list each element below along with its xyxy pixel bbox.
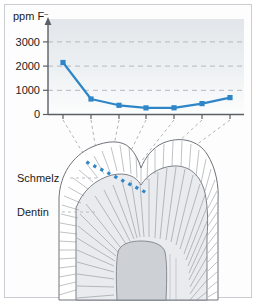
y-axis-title-text: ppm F — [13, 10, 44, 22]
data-point-4 — [143, 105, 148, 110]
label-schmelz: Schmelz — [17, 172, 59, 184]
y-tick-label-3000: 3000 — [16, 36, 40, 48]
data-point-5 — [171, 105, 176, 110]
figure-root: 3000 2000 1000 0 ppm F– — [0, 0, 258, 304]
figure-canvas: 3000 2000 1000 0 ppm F– — [0, 0, 258, 304]
pulp-chamber — [116, 241, 166, 300]
y-tick-label-1000: 1000 — [16, 84, 40, 96]
y-tick-label-2000: 2000 — [16, 60, 40, 72]
data-point-6 — [199, 101, 204, 106]
data-point-7 — [227, 95, 232, 100]
y-axis-ticks — [43, 42, 48, 115]
data-point-2 — [88, 96, 93, 101]
y-tick-label-0: 0 — [34, 108, 40, 120]
y-axis-title: ppm F– — [13, 10, 48, 22]
data-point-1 — [60, 60, 65, 65]
label-dentin: Dentin — [17, 206, 49, 218]
chart-panel: 3000 2000 1000 0 ppm F– — [13, 10, 244, 120]
y-axis-title-superscript: – — [44, 10, 48, 17]
data-point-3 — [116, 103, 121, 108]
tooth-diagram: Schmelz Dentin — [17, 140, 218, 302]
